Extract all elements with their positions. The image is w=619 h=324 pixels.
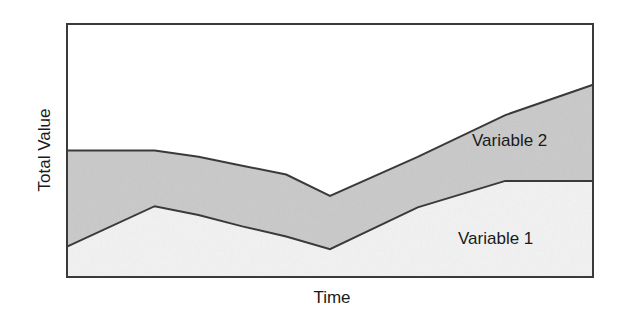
x-axis-label: Time [313,288,350,307]
series-label-variable-1: Variable 1 [458,229,533,248]
series-label-variable-2: Variable 2 [472,131,547,150]
stacked-area-chart: Variable 2 Variable 1 Time Total Value [0,0,619,324]
y-axis-label: Total Value [35,109,54,192]
